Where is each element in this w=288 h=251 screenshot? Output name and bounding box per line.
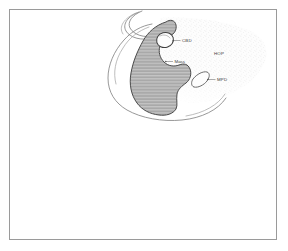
anatomical-diagram: CBD Mass HOP MPD <box>10 10 278 241</box>
figure-root: CBD Mass HOP MPD <box>0 0 288 251</box>
label-cbd: CBD <box>182 38 192 43</box>
label-hop: HOP <box>214 51 224 56</box>
cbd-leader-dot <box>173 40 174 41</box>
mpd-leader-dot <box>207 79 208 80</box>
annotation-hop: HOP <box>214 51 224 56</box>
figure-frame: CBD Mass HOP MPD <box>9 9 277 240</box>
label-mass: Mass <box>175 59 186 64</box>
label-mpd: MPD <box>217 77 227 82</box>
mass-leader-dot <box>165 61 166 62</box>
